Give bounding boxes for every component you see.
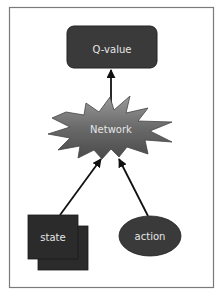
node-q-value: Q-value — [67, 26, 157, 68]
state-label: state — [40, 232, 65, 243]
node-action: action — [119, 216, 181, 256]
network-label: Network — [90, 124, 132, 135]
q-value-label: Q-value — [93, 44, 132, 55]
action-label: action — [135, 231, 166, 242]
diagram-canvas: Q-value Network state action — [0, 0, 221, 296]
